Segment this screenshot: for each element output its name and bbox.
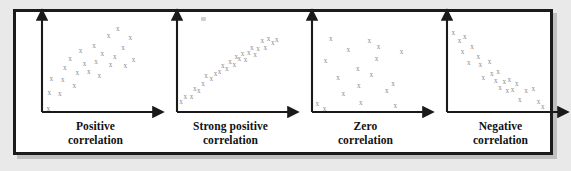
data-point: x bbox=[244, 56, 248, 64]
data-point: x bbox=[204, 72, 208, 80]
data-point: x bbox=[496, 68, 500, 76]
data-point: x bbox=[451, 29, 455, 37]
data-point: x bbox=[94, 58, 98, 66]
data-point: x bbox=[375, 55, 379, 63]
panel-caption: Strong positive correlation bbox=[163, 120, 298, 147]
data-point: x bbox=[518, 96, 522, 104]
figure-frame: xxxxxxxxxxxxxxxxxxxxxxxx Positive correl… bbox=[13, 9, 553, 155]
data-point: x bbox=[532, 85, 536, 93]
data-point: x bbox=[129, 34, 133, 42]
data-point: x bbox=[46, 105, 50, 113]
correlation-figure: xxxxxxxxxxxxxxxxxxxxxxxx Positive correl… bbox=[0, 0, 571, 171]
data-point: x bbox=[116, 25, 120, 33]
data-point: x bbox=[101, 50, 105, 58]
data-point: x bbox=[121, 44, 125, 52]
data-point: x bbox=[87, 68, 91, 76]
data-point: x bbox=[190, 93, 194, 101]
caption-line-1: Strong positive bbox=[163, 120, 298, 134]
data-point: x bbox=[50, 75, 54, 83]
caption-line-1: Positive bbox=[28, 120, 163, 134]
data-point: x bbox=[467, 59, 471, 67]
data-point: x bbox=[79, 47, 83, 55]
data-point: x bbox=[323, 105, 327, 113]
data-point: x bbox=[377, 43, 381, 51]
scatter-panel-positive-correlation: xxxxxxxxxxxxxxxxxxxxxxxx Positive correl… bbox=[28, 12, 163, 152]
data-point: x bbox=[506, 87, 510, 95]
scatter-svg: xxxxxxxxxxxxxxxxxxxxxxxxxxx bbox=[163, 12, 298, 124]
data-point: x bbox=[463, 33, 467, 41]
data-point: x bbox=[92, 42, 96, 50]
data-point: x bbox=[107, 32, 111, 40]
data-point: x bbox=[47, 89, 51, 97]
data-point: x bbox=[356, 65, 360, 73]
scatter-panel-negative-correlation: xxxxxxxxxxxxxxxxxxxxxxxx Negative correl… bbox=[433, 12, 568, 152]
data-point: x bbox=[76, 69, 80, 77]
scatter-svg: xxxxxxxxxxxxxxxxxxxxxxxx bbox=[28, 12, 163, 124]
data-point: x bbox=[502, 78, 506, 86]
data-point: x bbox=[61, 76, 65, 84]
data-point: x bbox=[256, 45, 260, 53]
data-point: x bbox=[515, 80, 519, 88]
data-point: x bbox=[58, 90, 62, 98]
caption-line-2: correlation bbox=[163, 134, 298, 148]
panel-caption: Zero correlation bbox=[298, 120, 433, 147]
plot-area: xxxxxxxxxxxxxxxxxxxxxxxx bbox=[433, 12, 568, 124]
data-point: x bbox=[385, 87, 389, 95]
data-point: x bbox=[264, 44, 268, 52]
caption-line-2: correlation bbox=[433, 134, 568, 148]
plot-area: xxxxxxxxxxxxxxxxxxxxxxxx bbox=[28, 12, 163, 124]
data-point: x bbox=[97, 72, 101, 80]
data-point: x bbox=[369, 71, 373, 79]
scatter-svg: xxxxxxxxxxxxxxxxxxxxxxxx bbox=[433, 12, 568, 124]
data-point: x bbox=[541, 103, 545, 111]
data-point: x bbox=[315, 100, 319, 108]
scatter-panel-zero-correlation: xxxxxxxxxxxxxxxxxx Zero correlation bbox=[298, 12, 433, 152]
plot-area: xxxxxxxxxxxxxxxxxx bbox=[298, 12, 433, 124]
data-point: x bbox=[68, 55, 72, 63]
data-point: x bbox=[341, 90, 345, 98]
data-point: x bbox=[197, 87, 201, 95]
caption-line-2: correlation bbox=[28, 134, 163, 148]
data-point: x bbox=[225, 65, 229, 73]
data-point: x bbox=[524, 87, 528, 95]
data-point: x bbox=[72, 82, 76, 90]
data-point: x bbox=[123, 62, 127, 70]
data-point: x bbox=[470, 43, 474, 51]
data-point-group: xxxxxxxxxxxxxxxxxx bbox=[315, 35, 403, 113]
data-point: x bbox=[488, 58, 492, 66]
data-point-group: xxxxxxxxxxxxxxxxxxxxxxxxxxx bbox=[179, 35, 279, 106]
scatter-panel-strong-positive-correlation: xxxxxxxxxxxxxxxxxxxxxxxxxxx Strong posit… bbox=[163, 12, 298, 152]
data-point: x bbox=[367, 37, 371, 45]
plot-area: xxxxxxxxxxxxxxxxxxxxxxxxxxx bbox=[163, 12, 298, 124]
data-point: x bbox=[109, 61, 113, 69]
data-point: x bbox=[184, 93, 188, 101]
data-point-group: xxxxxxxxxxxxxxxxxxxxxxxx bbox=[46, 25, 135, 112]
panel-caption: Negative correlation bbox=[433, 120, 568, 147]
data-point: x bbox=[461, 48, 465, 56]
data-point: x bbox=[329, 35, 333, 43]
data-point: x bbox=[357, 82, 361, 90]
data-point: x bbox=[232, 61, 236, 69]
caption-line-1: Negative bbox=[433, 120, 568, 134]
panel-caption: Positive correlation bbox=[28, 120, 163, 147]
data-point: x bbox=[63, 64, 67, 72]
data-point: x bbox=[113, 53, 117, 61]
caption-line-1: Zero bbox=[298, 120, 433, 134]
scatter-svg: xxxxxxxxxxxxxxxxxx bbox=[298, 12, 433, 124]
data-point: x bbox=[347, 46, 351, 54]
data-point: x bbox=[275, 36, 279, 44]
data-point: x bbox=[400, 48, 404, 56]
data-point: x bbox=[324, 57, 328, 65]
data-point: x bbox=[458, 37, 462, 45]
data-point: x bbox=[508, 76, 512, 84]
data-point: x bbox=[201, 80, 205, 88]
caption-line-2: correlation bbox=[298, 134, 433, 148]
data-point: x bbox=[336, 74, 340, 82]
data-point: x bbox=[478, 61, 482, 69]
data-point: x bbox=[359, 99, 363, 107]
data-point: x bbox=[393, 102, 397, 110]
data-point: x bbox=[132, 56, 136, 64]
data-point-group: xxxxxxxxxxxxxxxxxxxxxxxx bbox=[451, 29, 544, 111]
data-point: x bbox=[482, 74, 486, 82]
data-point: x bbox=[391, 80, 395, 88]
